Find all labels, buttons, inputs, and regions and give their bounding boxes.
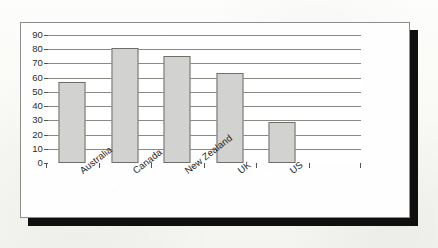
y-tick-label-10: 10 [21, 144, 43, 154]
x-axis: AustraliaCanadaNew ZealandUKUS [46, 168, 361, 218]
scanned-page: 0102030405060708090 AustraliaCanadaNew Z… [0, 0, 438, 248]
y-tick-label-70: 70 [21, 58, 43, 68]
y-tick-label-40: 40 [21, 101, 43, 111]
y-tick-label-20: 20 [21, 130, 43, 140]
bars-layer [46, 35, 361, 163]
y-tick-label-80: 80 [21, 44, 43, 54]
y-tick-label-30: 30 [21, 115, 43, 125]
y-tick-label-60: 60 [21, 73, 43, 83]
y-tick-label-50: 50 [21, 87, 43, 97]
bar-new-zealand[interactable] [164, 56, 191, 163]
y-tick-label-0: 0 [21, 158, 43, 168]
y-tick-label-90: 90 [21, 30, 43, 40]
y-axis: 0102030405060708090 [21, 35, 43, 163]
bar-slot [151, 35, 204, 163]
bar-us[interactable] [269, 122, 296, 163]
figure-card: 0102030405060708090 AustraliaCanadaNew Z… [20, 22, 410, 218]
bar-australia[interactable] [59, 82, 86, 163]
bar-canada[interactable] [111, 48, 138, 163]
bar-slot [256, 35, 309, 163]
bar-chart: 0102030405060708090 AustraliaCanadaNew Z… [21, 23, 409, 217]
bar-slot [46, 35, 99, 163]
